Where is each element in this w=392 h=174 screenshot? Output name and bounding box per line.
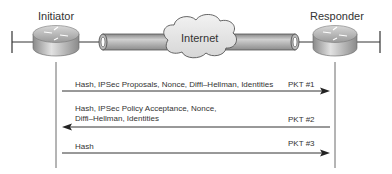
message-1-text: Hash, IPSec Proposals, Nonce, Diffi–Hell… xyxy=(75,80,273,90)
responder-label: Responder xyxy=(310,10,364,22)
responder-router-icon xyxy=(313,26,357,57)
message-3-packet: PKT #3 xyxy=(288,139,315,148)
initiator-lan-segment xyxy=(12,31,33,53)
initiator-label: Initiator xyxy=(38,10,74,22)
message-2-packet: PKT #2 xyxy=(288,115,315,124)
message-3-text: Hash xyxy=(75,142,94,152)
internet-label: Internet xyxy=(181,32,218,44)
message-2-text-line2: Diffi–Hellman, Identities xyxy=(75,114,159,124)
message-2-text-line1: Hash, IPSec Policy Acceptance, Nonce, xyxy=(75,104,216,114)
message-1-packet: PKT #1 xyxy=(288,80,315,89)
arrow-pkt2 xyxy=(62,124,330,131)
responder-lan-segment xyxy=(357,31,380,53)
arrow-pkt3 xyxy=(62,150,330,157)
initiator-router-icon xyxy=(33,26,79,57)
